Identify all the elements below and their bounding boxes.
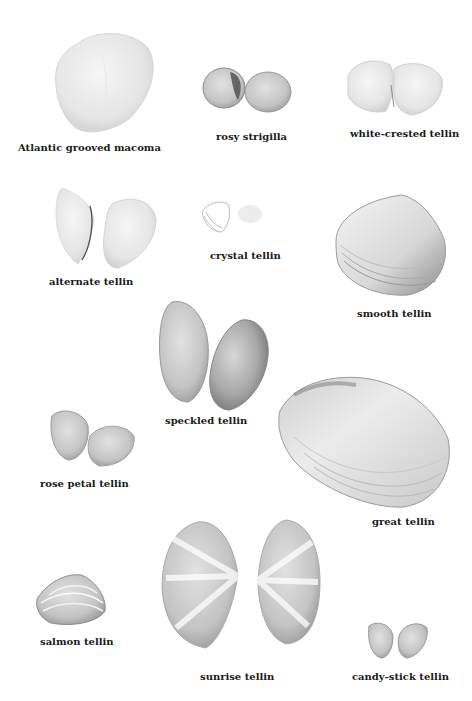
- atlantic-grooved-macoma-label: Atlantic grooved macoma: [18, 142, 161, 153]
- alternate-tellin-shell: [50, 184, 160, 274]
- rose-petal-tellin-shell: [46, 406, 138, 470]
- alternate-tellin-label: alternate tellin: [49, 276, 133, 287]
- shell-plate: Atlantic grooved macoma rosy strigilla w…: [0, 0, 472, 701]
- candy-stick-tellin-shell: [367, 620, 429, 660]
- atlantic-grooved-macoma-shell: [52, 28, 156, 132]
- crystal-tellin-label: crystal tellin: [210, 250, 281, 261]
- candy-stick-tellin-label: candy-stick tellin: [352, 671, 449, 682]
- rose-petal-tellin-label: rose petal tellin: [40, 478, 129, 489]
- great-tellin-shell: [274, 373, 454, 509]
- white-crested-tellin-shell: [342, 55, 446, 117]
- speckled-tellin-shell: [158, 298, 270, 412]
- rosy-strigilla-label: rosy strigilla: [216, 131, 287, 142]
- salmon-tellin-label: salmon tellin: [40, 636, 114, 647]
- rosy-strigilla-shell: [202, 64, 298, 114]
- salmon-tellin-shell: [35, 571, 107, 627]
- crystal-tellin-shell: [198, 198, 268, 238]
- white-crested-tellin-label: white-crested tellin: [350, 128, 459, 139]
- speckled-tellin-label: speckled tellin: [165, 415, 247, 426]
- great-tellin-label: great tellin: [372, 516, 435, 527]
- smooth-tellin-shell: [328, 193, 450, 297]
- smooth-tellin-label: smooth tellin: [357, 308, 432, 319]
- sunrise-tellin-shell: [162, 518, 322, 648]
- sunrise-tellin-label: sunrise tellin: [200, 671, 274, 682]
